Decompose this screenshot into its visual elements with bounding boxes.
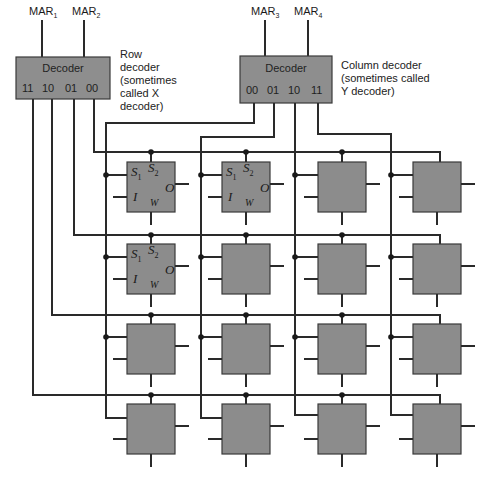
caption-line: called X [120,87,177,100]
s2-label: S2 [148,160,159,178]
junction-dot [148,149,154,155]
column-decoder-output-01: 01 [267,84,279,96]
s2-label: S2 [148,242,159,260]
input-label: I [228,189,232,205]
junction-dot [243,232,249,238]
caption-line: (sometimes called [341,72,430,85]
memory-cell-r2c0 [127,324,175,374]
mar2-label: MAR2 [72,5,100,22]
junction-dot [148,392,154,398]
caption-line: Column decoder [341,59,430,72]
input-label: I [133,271,137,287]
write-label: W [150,279,158,290]
row-decoder-output-10: 10 [42,82,54,94]
junction-dot [388,334,394,340]
input-label: I [133,189,137,205]
junction-dot [198,254,204,260]
memory-cell-r3c2 [318,404,366,454]
write-label: W [150,197,158,208]
row-decoder-title: Decoder [16,62,110,74]
s1-label: S1 [131,164,142,182]
column-decoder-title: Decoder [240,62,332,74]
memory-cell-r2c1 [222,324,270,374]
junction-dot [292,254,298,260]
junction-dot [339,312,345,318]
output-label: O [260,180,269,196]
column-line-2 [295,103,318,415]
column-decoder-output-00: 00 [246,84,258,96]
caption-line: (sometimes [120,74,177,87]
junction-dot [198,172,204,178]
s2-label: S2 [243,160,254,178]
caption-line: decoder) [120,100,177,113]
caption-line: Y decoder) [341,85,430,98]
mar4-label: MAR4 [294,5,322,22]
s1-label: S1 [131,246,142,264]
junction-dot [198,334,204,340]
junction-dot [243,392,249,398]
mar1-label: MAR1 [29,5,57,22]
memory-cell-r3c3 [413,404,461,454]
junction-dot [243,312,249,318]
memory-cells [103,149,475,467]
caption-line: decoder [120,61,177,74]
column-decoder-output-10: 10 [288,84,300,96]
junction-dot [103,172,109,178]
memory-cell-r0c2 [318,162,366,212]
memory-cell-r0c3 [413,162,461,212]
output-label: O [165,262,174,278]
memory-cell-r2c3 [413,324,461,374]
memory-cell-r1c3 [413,244,461,294]
caption-line: Row [120,48,177,61]
junction-dot [148,232,154,238]
column-decoder-output-11: 11 [311,84,322,96]
memory-cell-r1c2 [318,244,366,294]
output-label: O [165,180,174,196]
junction-dot [388,254,394,260]
row-decoder-output-00: 00 [86,82,98,94]
junction-dot [292,172,298,178]
junction-dot [103,334,109,340]
junction-dot [339,149,345,155]
row-decoder-output-01: 01 [65,82,77,94]
mar3-label: MAR3 [251,5,279,22]
write-label: W [245,197,253,208]
memory-cell-r3c1 [222,404,270,454]
memory-cell-r2c2 [318,324,366,374]
memory-cell-r3c0 [127,404,175,454]
column-decoder-caption: Column decoder (sometimes called Y decod… [341,59,430,98]
junction-dot [292,334,298,340]
memory-cell-r1c1 [222,244,270,294]
junction-dot [103,254,109,260]
junction-dot [243,149,249,155]
junction-dot [339,392,345,398]
junction-dot [148,312,154,318]
junction-dot [339,232,345,238]
s1-label: S1 [226,164,237,182]
junction-dot [388,172,394,178]
row-decoder-caption: Row decoder (sometimes called X decoder) [120,48,177,113]
row-decoder-output-11: 11 [22,82,33,94]
